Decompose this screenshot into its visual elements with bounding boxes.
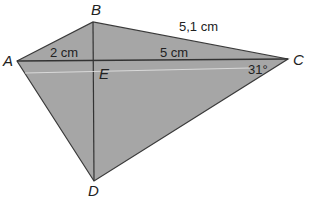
point-label-c: C [293,51,304,68]
measure-bc: 5,1 cm [179,19,218,34]
point-label-d: D [88,182,99,197]
measure-ec: 5 cm [160,45,188,60]
angle-c-label: 31° [248,62,268,77]
point-label-e: E [99,65,110,82]
kite-diagram: A B C D E 2 cm 5 cm 5,1 cm 31° [0,0,310,197]
point-label-b: B [91,1,101,18]
measure-ae: 2 cm [50,45,78,60]
point-label-a: A [2,52,13,69]
